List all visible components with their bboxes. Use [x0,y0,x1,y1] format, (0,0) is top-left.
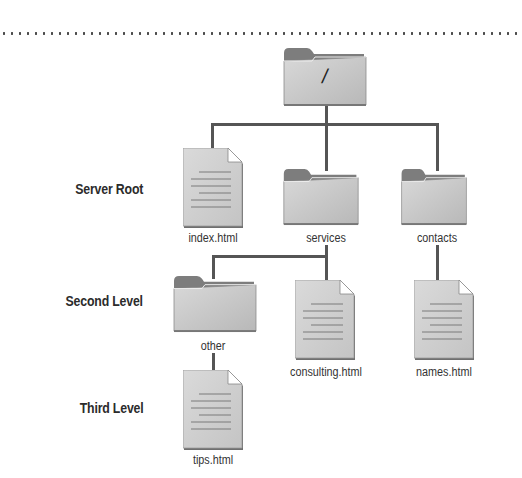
file-names-html[interactable] [414,280,476,362]
dotted-separator [0,32,522,35]
connector-services-horizontal [212,255,328,258]
file-label-index-html: index.html [188,231,237,245]
file-consulting-html[interactable] [295,280,357,362]
connector-to-index [211,123,214,149]
connector-to-contacts [436,123,439,171]
document-icon [295,280,357,362]
folder-label-services: services [304,231,347,245]
document-icon [414,280,476,362]
file-index-html[interactable] [183,148,245,230]
file-tips-html[interactable] [183,370,245,452]
folder-icon [172,275,258,333]
level-label-server-root: Server Root [75,181,143,197]
file-label-names-html: names.html [416,365,472,379]
root-folder[interactable]: / [282,47,368,107]
document-icon [183,370,245,452]
folder-other[interactable] [172,275,258,333]
folder-label-other: other [199,339,227,353]
folder-contacts[interactable] [400,168,468,226]
level-label-second-level: Second Level [66,293,143,309]
file-label-tips-html: tips.html [193,453,233,467]
level-label-third-level: Third Level [79,400,143,416]
folder-label-contacts: contacts [415,231,459,245]
folder-icon [282,168,360,226]
connector-to-services [325,123,328,171]
connector-services-down [325,244,328,282]
folder-services[interactable] [282,168,360,226]
connector-contacts-down [436,244,439,282]
document-icon [183,148,245,230]
file-label-consulting-html: consulting.html [290,365,362,379]
root-folder-label: / [280,65,370,88]
folder-icon [400,168,468,226]
